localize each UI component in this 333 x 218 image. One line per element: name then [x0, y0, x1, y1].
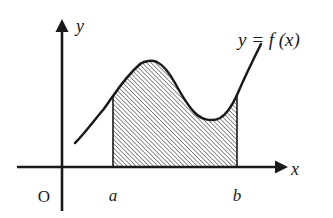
x-axis-label: x [290, 159, 299, 179]
figure-canvas: x y O a b y = f (x) [0, 0, 333, 218]
tick-label-b: b [233, 186, 242, 205]
shaded-area-region [110, 55, 242, 170]
x-axis-arrowhead-icon [275, 161, 288, 174]
origin-label: O [38, 187, 50, 206]
y-axis [56, 19, 69, 211]
curve-equation-label: y = f (x) [236, 29, 300, 51]
tick-label-a: a [109, 186, 118, 205]
integral-area-diagram: x y O a b y = f (x) [0, 0, 333, 218]
y-axis-arrowhead-icon [56, 19, 69, 32]
area-hatch-fill [110, 55, 242, 170]
y-axis-label: y [74, 16, 84, 36]
